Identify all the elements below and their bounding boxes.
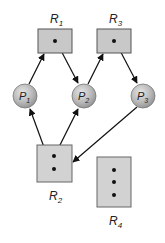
svg-text:R3: R3 <box>109 12 123 28</box>
edge-p2-to-r3 <box>88 54 103 84</box>
resource-r3: R3 <box>97 12 131 53</box>
instance-dot <box>112 168 116 172</box>
resource-r4: R4 <box>97 157 131 230</box>
process-p1: P1 <box>13 84 37 108</box>
edge-p3-to-r2 <box>73 107 137 162</box>
instance-dot <box>52 154 56 158</box>
instance-dot <box>53 39 57 43</box>
resource-r2: R2 <box>37 145 72 205</box>
svg-text:R1: R1 <box>50 12 63 28</box>
resource-r1: R1 <box>38 12 72 53</box>
instance-dot <box>52 167 56 171</box>
instance-dot <box>112 180 116 184</box>
process-p2: P2 <box>72 84 96 108</box>
svg-text:R2: R2 <box>49 189 63 205</box>
resource-allocation-graph: R1 R3 P1 P2 P3 R2 R4 <box>0 0 165 243</box>
process-p3: P3 <box>131 84 155 108</box>
instance-dot <box>112 39 116 43</box>
svg-text:R4: R4 <box>109 214 123 230</box>
instance-dot <box>112 193 116 197</box>
edge-p1-to-r1 <box>29 54 44 84</box>
